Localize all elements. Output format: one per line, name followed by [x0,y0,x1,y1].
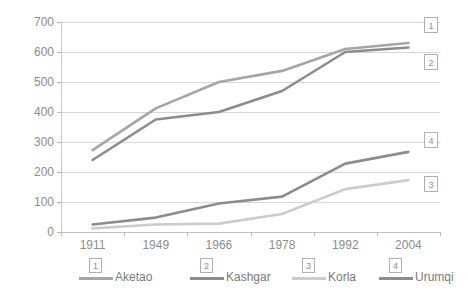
x-tick-label: 1992 [315,238,375,252]
legend-badge: 4 [389,258,402,273]
legend-label: Aketao [115,270,152,284]
y-tick-mark [57,52,61,53]
series-callout-kashgar: 2 [424,54,438,70]
x-tick-label: 1978 [252,238,312,252]
x-tick-mark [187,232,188,236]
x-tick-mark [251,232,252,236]
legend-label: Urumqi [415,270,454,284]
y-tick-mark [57,172,61,173]
legend: 1Aketao2Kashgar3Korla4Urumqi [0,258,468,292]
y-tick-mark [57,22,61,23]
series-callout-aketao: 1 [424,17,438,33]
legend-label: Korla [328,270,356,284]
y-tick-mark [57,82,61,83]
series-line-kashgar [93,48,409,161]
y-tick-mark [57,112,61,113]
y-tick-mark [57,142,61,143]
x-tick-mark [314,232,315,236]
x-tick-mark [124,232,125,236]
legend-swatch-icon [379,277,413,280]
legend-badge: 2 [200,258,213,273]
x-tick-label: 1966 [189,238,249,252]
line-chart: 0100200300400500600700 19111949196619781… [0,0,468,294]
series-line-aketao [93,43,409,150]
legend-swatch-icon [292,277,326,280]
x-tick-label: 1949 [126,238,186,252]
legend-swatch-icon [79,277,113,280]
legend-badge: 1 [89,258,102,273]
x-tick-label: 2004 [378,238,438,252]
x-tick-mark [377,232,378,236]
x-tick-mark [440,232,441,236]
legend-badge: 3 [302,258,315,273]
series-line-urumqi [93,152,409,225]
y-tick-mark [57,202,61,203]
x-tick-mark [61,232,62,236]
series-callout-urumqi: 4 [424,132,438,148]
series-line-korla [93,180,409,228]
x-tick-label: 1911 [63,238,123,252]
series-callout-korla: 3 [424,176,438,192]
legend-label: Kashgar [226,270,271,284]
legend-swatch-icon [190,277,224,280]
